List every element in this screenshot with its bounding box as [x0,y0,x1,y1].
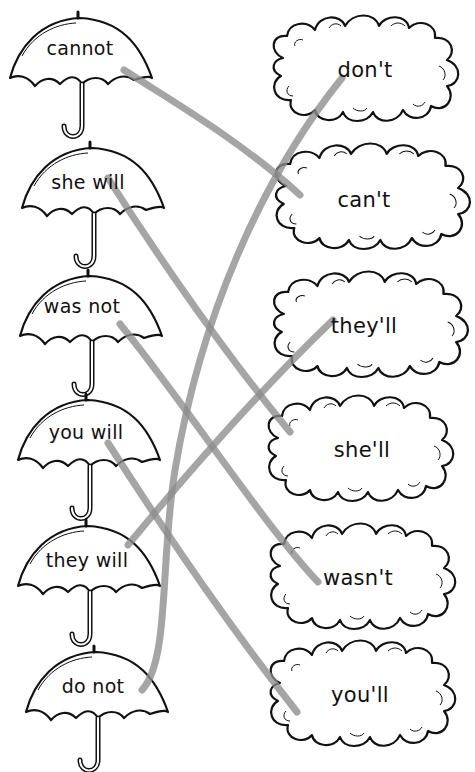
umbrella-icon [18,394,160,519]
umbrella-label-she-will: she will [51,171,124,193]
cloud-label-dont: don't [338,58,393,82]
cloud-label-theyll: they'll [331,314,397,338]
umbrella-label-they-will: they will [46,549,129,571]
cloud-label-youll: you'll [331,683,389,707]
cloud-label-wasnt: wasn't [323,566,393,590]
umbrella-icon [20,270,162,395]
umbrella-label-do-not: do not [62,675,125,697]
cloud-label-shell: she'll [334,438,390,462]
umbrella-icon [22,142,164,267]
cloud-label-cant: can't [337,188,390,212]
umbrella-icon [26,646,168,771]
umbrella-icon [18,520,160,645]
umbrella-label-you-will: you will [49,421,124,443]
umbrella-label-was-not: was not [44,295,120,317]
contraction-worksheet: cannot she will was not you will they wi… [0,0,475,772]
umbrella-label-cannot: cannot [46,37,113,59]
worksheet-drawing [0,0,475,772]
